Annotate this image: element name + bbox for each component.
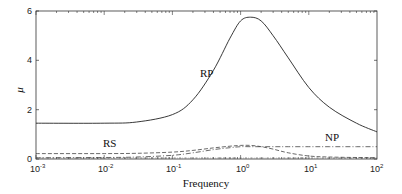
svg-text:101: 101	[304, 163, 318, 174]
svg-text:102: 102	[370, 163, 384, 174]
rp-annotation: RP	[200, 67, 213, 79]
y-axis-label: μ	[13, 87, 25, 94]
svg-text:10-1: 10-1	[166, 163, 182, 174]
svg-text:100: 100	[236, 163, 250, 174]
svg-text:2: 2	[27, 105, 32, 115]
x-tick-labels: 10-3 10-2 10-1 100 101 102	[30, 163, 384, 174]
mu-frequency-chart: 0 2 4 6 10-3 10-2 10-1 100 101 102 Frequ…	[0, 0, 402, 194]
svg-text:0: 0	[27, 154, 32, 164]
svg-text:4: 4	[27, 55, 32, 65]
rs-curve	[36, 145, 377, 158]
svg-text:10-3: 10-3	[30, 163, 46, 174]
svg-text:10-2: 10-2	[98, 163, 114, 174]
np-annotation: NP	[325, 131, 339, 143]
np-curve	[36, 147, 377, 158]
x-axis-label: Frequency	[183, 177, 230, 189]
svg-text:6: 6	[27, 6, 32, 16]
rs-annotation: RS	[103, 137, 116, 149]
x-ticks	[36, 11, 374, 159]
y-tick-labels: 0 2 4 6	[27, 6, 32, 164]
